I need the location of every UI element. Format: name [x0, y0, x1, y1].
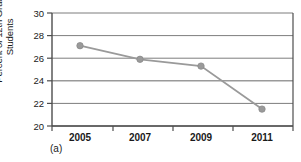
- plot-area-background: [52, 13, 293, 126]
- data-point-2009: [198, 63, 204, 69]
- line-chart: 30 28 26 24 22 20 2005 2007 2009 2011: [0, 0, 301, 162]
- x-axis-tick-labels: 2005 2007 2009 2011: [69, 132, 273, 143]
- data-point-2005: [77, 43, 83, 49]
- x-tick-label-2005: 2005: [69, 132, 92, 143]
- figure-caption: (a): [50, 143, 62, 154]
- y-axis-tick-labels: 30 28 26 24 22 20: [33, 8, 44, 132]
- x-tick-label-2011: 2011: [251, 132, 273, 143]
- y-tick-label-26: 26: [33, 53, 44, 64]
- x-tick-label-2007: 2007: [129, 132, 152, 143]
- y-tick-label-20: 20: [33, 121, 44, 132]
- figure-panel-a: Percent of 12th Grade Students: [0, 0, 301, 162]
- data-point-2011: [259, 106, 265, 112]
- data-point-2007: [137, 56, 143, 62]
- y-axis-ticks: [47, 13, 52, 126]
- x-tick-label-2009: 2009: [190, 132, 213, 143]
- y-tick-label-30: 30: [33, 8, 44, 19]
- y-tick-label-24: 24: [33, 75, 44, 86]
- x-axis-ticks: [52, 126, 293, 131]
- y-tick-label-22: 22: [33, 98, 44, 109]
- y-tick-label-28: 28: [33, 30, 44, 41]
